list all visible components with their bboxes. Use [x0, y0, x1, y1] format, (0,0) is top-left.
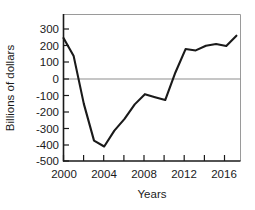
- x-tick-label-2016: 2016: [211, 168, 237, 180]
- x-axis-tick-labels: 2000 2004 2008 2012 2016: [51, 168, 237, 180]
- y-axis-ticks: [64, 29, 70, 161]
- y-tick-label-300: 300: [40, 23, 59, 35]
- x-axis-ticks: [64, 155, 225, 161]
- x-tick-label-2012: 2012: [171, 168, 197, 180]
- data-series-line: [64, 36, 237, 147]
- plot-frame: [63, 15, 241, 162]
- axis-spines: [63, 14, 241, 162]
- x-tick-label-2004: 2004: [91, 168, 117, 180]
- y-axis-tick-labels: 300 200 100 0 -100 -200 -300 -400 -500: [36, 23, 59, 167]
- chart-figure: 300 200 100 0 -100 -200 -300 -400 -500 2…: [0, 0, 255, 210]
- y-tick-label-n500: -500: [36, 155, 59, 167]
- y-tick-label-n400: -400: [36, 139, 59, 151]
- budget-line-chart: 300 200 100 0 -100 -200 -300 -400 -500 2…: [0, 0, 255, 210]
- y-tick-label-n200: -200: [36, 106, 59, 118]
- y-tick-label-0: 0: [53, 73, 59, 85]
- x-tick-label-2008: 2008: [131, 168, 157, 180]
- x-tick-label-2000: 2000: [51, 168, 77, 180]
- x-axis-title: Years: [138, 188, 167, 200]
- y-tick-label-200: 200: [40, 40, 59, 52]
- y-axis-title: Billions of dollars: [4, 45, 16, 132]
- y-tick-label-100: 100: [40, 56, 59, 68]
- y-tick-label-n300: -300: [36, 123, 59, 135]
- y-tick-label-n100: -100: [36, 90, 59, 102]
